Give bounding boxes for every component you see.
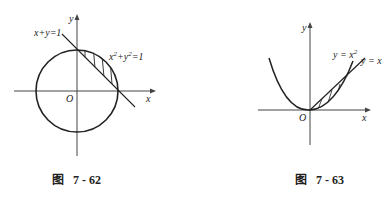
origin-label: O [66,93,73,104]
y-axis-arrow-icon [75,14,80,20]
y-axis-label: y [68,13,74,24]
caption-prefix: 图 [295,173,307,187]
x-axis-label: x [361,112,367,123]
figure-caption: 图 7 - 62 [52,170,101,188]
line-label: y = x [360,55,382,66]
caption-number: 7 - 63 [316,173,344,187]
figure-caption: 图 7 - 63 [295,170,344,188]
parabola-line-diagram: y x O y = x2 y = x [195,0,390,202]
origin-label: O [299,112,306,123]
caption-number: 7 - 62 [73,173,101,187]
parabola-y-eq-x-squared [269,58,353,110]
parabola-label: y = x2 [332,48,358,60]
circle-label: x2+y2=1 [108,50,143,62]
line-label: x+y=1 [33,27,61,38]
y-axis-label: y [301,22,307,33]
x-axis-label: x [145,93,151,104]
figure-7-63: y x O y = x2 y = x 图 7 - 63 [195,0,390,202]
line-y-eq-x [310,58,365,110]
figure-7-62: y x O x+y=1 x2+y2=1 图 7 - 62 [0,0,195,202]
y-axis-arrow-icon [308,22,313,28]
caption-prefix: 图 [52,173,64,187]
x-axis-arrow-icon [150,89,156,94]
